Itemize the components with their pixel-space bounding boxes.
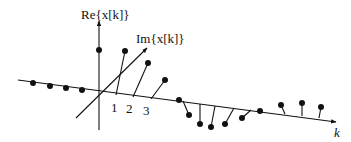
sample-k9 — [239, 110, 251, 121]
tick-label-3: 3 — [143, 103, 150, 118]
sample-k11 — [278, 102, 285, 114]
sample-k13 — [318, 104, 324, 118]
tick-label-1: 1 — [111, 100, 118, 115]
sample-k10 — [257, 108, 263, 114]
zero-samples-left — [30, 80, 85, 93]
sample-k8 — [222, 108, 234, 127]
sample-k4 — [176, 97, 182, 103]
sample-k1 — [116, 48, 128, 95]
tick-label-2: 2 — [126, 101, 133, 116]
sample-k2 — [133, 60, 151, 97]
k-axis-label: k — [334, 125, 340, 140]
diagram-svg: Re{x[k]} Im{x[k]} k 1 2 3 — [0, 0, 351, 142]
sample-k7 — [208, 106, 215, 130]
imag-axis-label: Im{x[k]} — [136, 31, 185, 46]
real-axis-label: Re{x[k]} — [81, 7, 130, 22]
sample-k5 — [183, 101, 192, 118]
sample-k12 — [299, 100, 305, 116]
sample-k6 — [197, 104, 203, 127]
complex-signal-diagram: Re{x[k]} Im{x[k]} k 1 2 3 — [0, 0, 351, 142]
sample-k3 — [151, 77, 168, 99]
sample-k0 — [96, 47, 102, 53]
